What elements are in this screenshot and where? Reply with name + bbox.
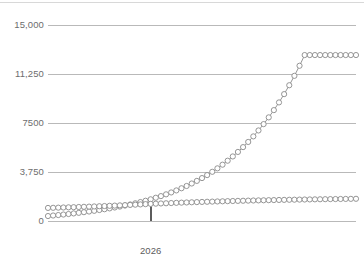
data-point bbox=[86, 209, 91, 214]
data-point bbox=[251, 198, 256, 203]
chart-container: 03,750750011,25015,000 2026 bbox=[0, 0, 364, 265]
data-point bbox=[312, 197, 317, 202]
data-point bbox=[266, 198, 271, 203]
data-point bbox=[287, 197, 292, 202]
data-point bbox=[143, 202, 148, 207]
data-point bbox=[292, 197, 297, 202]
data-point bbox=[86, 204, 91, 209]
data-point bbox=[66, 211, 71, 216]
data-point bbox=[158, 201, 163, 206]
data-point bbox=[199, 199, 204, 204]
data-point bbox=[338, 52, 343, 57]
data-point bbox=[169, 200, 174, 205]
data-point bbox=[45, 213, 50, 218]
data-point bbox=[256, 128, 261, 133]
data-point bbox=[266, 115, 271, 120]
data-point bbox=[179, 186, 184, 191]
data-point bbox=[184, 183, 189, 188]
data-point bbox=[215, 166, 220, 171]
data-point bbox=[220, 199, 225, 204]
data-point bbox=[312, 52, 317, 57]
chart-plot-area bbox=[0, 0, 364, 265]
data-point bbox=[128, 202, 133, 207]
data-point bbox=[174, 200, 179, 205]
data-point bbox=[66, 205, 71, 210]
data-point bbox=[240, 145, 245, 150]
data-point bbox=[51, 205, 56, 210]
data-point bbox=[282, 197, 287, 202]
data-point bbox=[205, 172, 210, 177]
data-point bbox=[225, 158, 230, 163]
data-point bbox=[205, 199, 210, 204]
data-point bbox=[220, 162, 225, 167]
data-point bbox=[246, 139, 251, 144]
data-point bbox=[230, 198, 235, 203]
data-point bbox=[174, 188, 179, 193]
data-point bbox=[169, 190, 174, 195]
data-point bbox=[210, 169, 215, 174]
data-point bbox=[194, 200, 199, 205]
data-point bbox=[194, 178, 199, 183]
data-point bbox=[184, 200, 189, 205]
data-point bbox=[163, 192, 168, 197]
data-point bbox=[302, 197, 307, 202]
data-point bbox=[317, 52, 322, 57]
data-point bbox=[133, 202, 138, 207]
series-line bbox=[48, 55, 356, 216]
data-point bbox=[353, 52, 358, 57]
data-point bbox=[189, 181, 194, 186]
data-point bbox=[348, 196, 353, 201]
data-point bbox=[271, 197, 276, 202]
data-point bbox=[271, 108, 276, 113]
data-point bbox=[210, 199, 215, 204]
data-point bbox=[287, 83, 292, 88]
data-point bbox=[163, 201, 168, 206]
data-point bbox=[51, 213, 56, 218]
data-point bbox=[297, 197, 302, 202]
data-point bbox=[235, 149, 240, 154]
data-point bbox=[97, 204, 102, 209]
data-point bbox=[138, 202, 143, 207]
data-point bbox=[76, 204, 81, 209]
data-point bbox=[61, 205, 66, 210]
data-point bbox=[353, 196, 358, 201]
data-point bbox=[240, 198, 245, 203]
data-point bbox=[343, 196, 348, 201]
data-point bbox=[199, 175, 204, 180]
data-point bbox=[189, 200, 194, 205]
data-point bbox=[261, 198, 266, 203]
data-point bbox=[81, 210, 86, 215]
data-point bbox=[348, 52, 353, 57]
data-point bbox=[148, 201, 153, 206]
data-point bbox=[92, 204, 97, 209]
data-point bbox=[112, 203, 117, 208]
data-point bbox=[307, 52, 312, 57]
x-axis-tick-label-2026: 2026 bbox=[131, 245, 171, 256]
data-point bbox=[297, 63, 302, 68]
data-point bbox=[302, 52, 307, 57]
data-point bbox=[323, 197, 328, 202]
data-point bbox=[76, 210, 81, 215]
data-point bbox=[328, 197, 333, 202]
data-point bbox=[45, 205, 50, 210]
data-point bbox=[251, 134, 256, 139]
data-point bbox=[153, 201, 158, 206]
data-point bbox=[215, 199, 220, 204]
data-point bbox=[261, 122, 266, 127]
data-point bbox=[117, 203, 122, 208]
data-point bbox=[246, 198, 251, 203]
data-point bbox=[61, 212, 66, 217]
data-point bbox=[276, 100, 281, 105]
data-point bbox=[328, 52, 333, 57]
data-point bbox=[225, 199, 230, 204]
data-point bbox=[81, 204, 86, 209]
data-point bbox=[282, 92, 287, 97]
data-point bbox=[230, 154, 235, 159]
data-point bbox=[153, 195, 158, 200]
data-point bbox=[292, 73, 297, 78]
data-point bbox=[338, 196, 343, 201]
data-point bbox=[56, 205, 61, 210]
data-point bbox=[317, 197, 322, 202]
series-linear-series bbox=[45, 196, 358, 210]
data-point bbox=[158, 194, 163, 199]
